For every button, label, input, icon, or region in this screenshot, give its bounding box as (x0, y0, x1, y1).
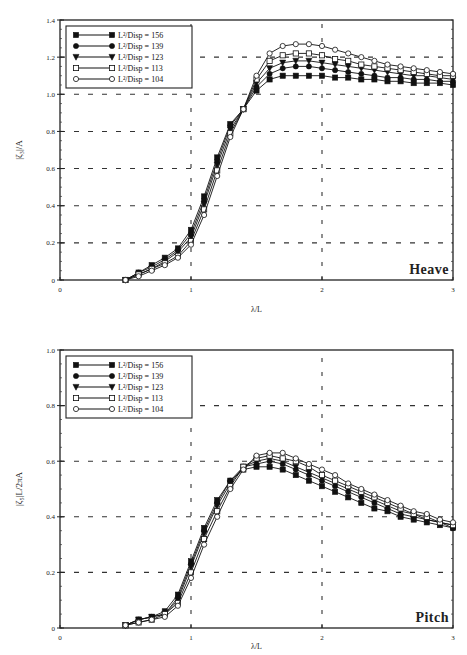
filled-square-marker-icon (372, 506, 377, 511)
open-square-marker-icon (306, 51, 311, 56)
filled-triangle-down-marker-icon (280, 60, 286, 66)
open-circle-marker-icon (450, 71, 455, 76)
open-circle-marker-icon (254, 453, 259, 458)
open-circle-marker-icon (333, 473, 338, 478)
open-square-marker-icon (372, 64, 377, 69)
filled-square-marker-icon (293, 73, 298, 78)
filled-square-marker-icon (267, 77, 272, 82)
open-square-marker-icon (293, 51, 298, 56)
open-circle-marker-icon (280, 450, 285, 455)
panel-label: Pitch (415, 610, 449, 625)
y-tick-label: 0.2 (46, 569, 55, 577)
open-circle-marker-icon (228, 486, 233, 491)
heave-chart: 00.20.40.60.81.01.21.40123λ/L|ζ₃|/AHeave… (14, 17, 456, 315)
open-circle-marker-icon (267, 51, 272, 56)
open-circle-marker-icon (280, 43, 285, 48)
x-tick-label: 3 (451, 634, 455, 642)
open-circle-marker-icon (188, 575, 193, 580)
filled-square-marker-icon (267, 464, 272, 469)
x-tick-label: 0 (58, 634, 62, 642)
filled-square-marker-icon (333, 489, 338, 494)
y-tick-label: 1.0 (46, 347, 55, 355)
filled-square-marker-icon (359, 77, 364, 82)
open-circle-marker-icon (411, 509, 416, 514)
x-tick-label: 1 (189, 286, 193, 294)
series-123 (123, 456, 457, 629)
open-square-marker-icon (359, 62, 364, 67)
open-circle-marker-icon (411, 66, 416, 71)
legend-label: L²/Disp = 104 (118, 75, 163, 84)
open-square-marker-icon (333, 478, 338, 483)
legend-label: L²/Disp = 113 (118, 64, 163, 73)
filled-square-marker-icon (359, 500, 364, 505)
legend-label: L²/Disp = 123 (118, 383, 163, 392)
y-tick-label: 0.4 (46, 513, 55, 521)
open-square-marker-icon (346, 58, 351, 63)
filled-square-marker-icon (346, 75, 351, 80)
open-circle-marker-icon (228, 134, 233, 139)
series-139 (123, 64, 456, 283)
y-axis-label: |ζ₃|/A (14, 140, 24, 160)
series-156 (123, 73, 456, 282)
open-circle-marker-icon (162, 614, 167, 619)
open-circle-marker-icon (437, 69, 442, 74)
open-circle-marker-icon (359, 55, 364, 60)
open-circle-marker-icon (372, 492, 377, 497)
y-tick-label: 0.8 (46, 128, 55, 136)
open-circle-marker-icon (437, 517, 442, 522)
filled-square-marker-icon (293, 473, 298, 478)
x-tick-label: 2 (320, 634, 324, 642)
y-tick-label: 0 (52, 277, 56, 285)
y-tick-label: 1.2 (46, 54, 55, 62)
filled-square-marker-icon (333, 75, 338, 80)
filled-circle-legend-icon (73, 43, 78, 48)
open-circle-marker-icon (293, 456, 298, 461)
open-square-marker-icon (319, 473, 324, 478)
legend-label: L²/Disp = 156 (118, 361, 163, 370)
filled-square-marker-icon (306, 478, 311, 483)
open-circle-marker-icon (202, 542, 207, 547)
open-circle-marker-icon (346, 481, 351, 486)
pitch-chart: 00.20.40.60.81.00123λ/L|ζ₅|L/2πAPitchL²/… (14, 347, 456, 652)
open-circle-marker-icon (424, 511, 429, 516)
open-square-marker-icon (267, 58, 272, 63)
open-square-marker-icon (280, 53, 285, 58)
open-square-marker-icon (319, 53, 324, 58)
legend: L²/Disp = 156L²/Disp = 139L²/Disp = 123L… (66, 26, 192, 88)
open-square-legend-icon (73, 65, 78, 70)
open-circle-legend-icon (73, 76, 78, 81)
x-tick-label: 0 (58, 286, 62, 294)
legend: L²/Disp = 156L²/Disp = 139L²/Disp = 123L… (66, 356, 192, 418)
y-tick-label: 0.8 (46, 402, 55, 410)
open-circle-marker-icon (136, 620, 141, 625)
open-circle-marker-icon (241, 467, 246, 472)
open-circle-marker-icon (215, 173, 220, 178)
filled-square-legend-icon (73, 32, 78, 37)
open-square-legend-icon (109, 395, 114, 400)
open-circle-marker-icon (385, 498, 390, 503)
legend-label: L²/Disp = 156 (118, 31, 163, 40)
legend-label: L²/Disp = 104 (118, 405, 163, 414)
y-tick-label: 0.2 (46, 239, 55, 247)
open-circle-marker-icon (254, 73, 259, 78)
open-circle-marker-icon (175, 603, 180, 608)
open-circle-marker-icon (450, 520, 455, 525)
open-square-marker-icon (280, 456, 285, 461)
filled-circle-legend-icon (109, 43, 114, 48)
open-circle-marker-icon (385, 62, 390, 67)
open-square-legend-icon (73, 395, 78, 400)
filled-circle-legend-icon (109, 373, 114, 378)
y-axis-ticks: 00.20.40.60.81.0 (46, 347, 64, 633)
filled-square-marker-icon (319, 484, 324, 489)
series-line (126, 66, 454, 280)
x-axis-label: λ/L (251, 642, 262, 651)
open-circle-marker-icon (306, 461, 311, 466)
y-tick-label: 0 (52, 625, 56, 633)
y-axis-ticks: 00.20.40.60.81.01.21.4 (46, 17, 64, 285)
filled-square-marker-icon (319, 73, 324, 78)
open-circle-legend-icon (109, 406, 114, 411)
open-circle-marker-icon (424, 68, 429, 73)
open-circle-legend-icon (73, 406, 78, 411)
open-square-legend-icon (109, 65, 114, 70)
open-circle-marker-icon (202, 212, 207, 217)
